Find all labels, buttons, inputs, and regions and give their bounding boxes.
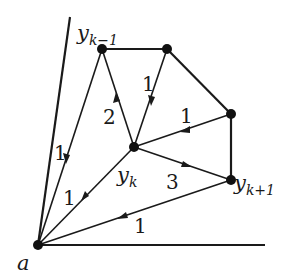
weight-yk-ykp1: 3 xyxy=(166,170,179,194)
weight-top-yk: 1 xyxy=(142,72,155,96)
arrow-yk-a-icon xyxy=(81,191,89,201)
weight-ykm1-a: 1 xyxy=(54,141,67,165)
edge-ykm1-a xyxy=(38,49,102,245)
label-a: a xyxy=(17,251,30,275)
left-ray xyxy=(38,17,70,245)
label-ykm1: yk−1 xyxy=(76,21,118,48)
weight-right-yk: 1 xyxy=(180,104,193,128)
weight-ykp1-a: 1 xyxy=(134,214,147,238)
arrow-yk-ykp1-icon xyxy=(181,161,192,167)
weight-yk-a: 1 xyxy=(63,186,76,210)
arrow-ykp1-a-icon xyxy=(117,212,128,219)
label-yk: yk xyxy=(116,163,137,190)
weight-yk-ykm1: 2 xyxy=(103,105,116,129)
label-ykp1: yk+1 xyxy=(233,171,275,198)
node-yk xyxy=(129,142,139,152)
edge-top-right xyxy=(167,49,231,114)
node-right xyxy=(226,109,236,119)
graph-diagram: a yk−1 yk yk+1 1 2 1 1 3 1 1 xyxy=(0,0,301,275)
node-top xyxy=(162,44,172,54)
node-a xyxy=(33,240,43,250)
